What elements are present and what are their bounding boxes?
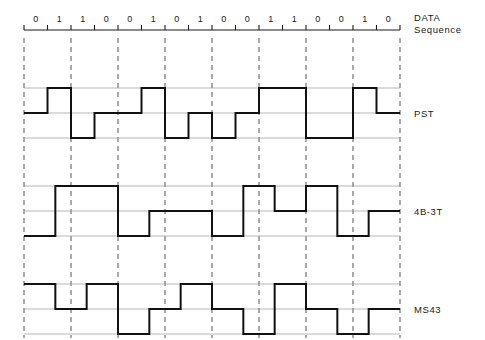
data-sequence-bit-labels: 0110010100110010 (33, 14, 391, 24)
data-bit-label-8: 0 (221, 14, 226, 24)
data-sequence-axis (24, 25, 400, 30)
waveform-figure: 0110010100110010DATASequencePST4B-3TMS43 (0, 0, 485, 340)
data-bit-label-12: 0 (315, 14, 320, 24)
data-bit-label-5: 1 (151, 14, 156, 24)
waveform-row-pst: PST (24, 88, 434, 138)
row-label-pst: PST (414, 108, 434, 119)
data-bit-label-9: 0 (245, 14, 250, 24)
data-bit-label-2: 1 (80, 14, 85, 24)
data-bit-label-7: 1 (198, 14, 203, 24)
data-sequence-label-line1: DATA (414, 12, 440, 23)
data-bit-label-0: 0 (33, 14, 38, 24)
data-bit-label-4: 0 (127, 14, 132, 24)
data-bit-label-1: 1 (57, 14, 62, 24)
data-sequence-label: DATASequence (414, 12, 462, 35)
data-bit-label-15: 0 (386, 14, 391, 24)
data-bit-label-3: 0 (104, 14, 109, 24)
data-bit-label-6: 0 (174, 14, 179, 24)
row-label-ms43: MS43 (414, 304, 441, 315)
waveform-row-ms43: MS43 (24, 284, 441, 334)
data-sequence-label-line2: Sequence (414, 24, 462, 35)
data-bit-label-10: 1 (268, 14, 273, 24)
waveform-row-4b3t: 4B-3T (24, 186, 443, 236)
row-label-4b3t: 4B-3T (414, 206, 443, 217)
data-bit-label-11: 1 (292, 14, 297, 24)
data-bit-label-14: 1 (362, 14, 367, 24)
data-bit-label-13: 0 (339, 14, 344, 24)
